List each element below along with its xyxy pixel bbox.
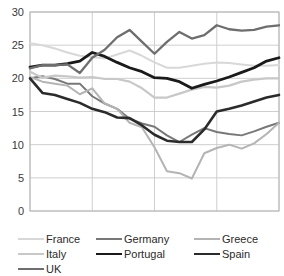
y-axis-tick-label: 5 xyxy=(18,172,24,184)
gridlines xyxy=(30,12,279,211)
legend-swatch-icon xyxy=(18,268,44,270)
line-chart: 051015202530 19992004200920142019 France… xyxy=(0,0,284,276)
legend-swatch-icon xyxy=(194,238,220,240)
y-axis-tick-label: 30 xyxy=(12,6,24,18)
y-axis-tick-label: 15 xyxy=(12,106,24,118)
legend-label: Germany xyxy=(124,233,169,245)
legend-item-france[interactable]: France xyxy=(0,232,92,246)
chart-legend: FranceGermanyGreeceItalyPortugalSpainUK xyxy=(0,232,284,276)
legend-label: Italy xyxy=(46,248,66,260)
legend-item-germany[interactable]: Germany xyxy=(92,232,192,246)
legend-swatch-icon xyxy=(96,238,122,240)
legend-label: UK xyxy=(46,263,61,275)
y-axis-tick-label: 0 xyxy=(18,205,24,215)
legend-label: France xyxy=(46,233,80,245)
chart-svg: 051015202530 19992004200920142019 xyxy=(0,0,284,215)
legend-row: ItalyPortugalSpain xyxy=(0,247,284,261)
legend-item-greece[interactable]: Greece xyxy=(192,232,284,246)
y-axis-tick-label: 10 xyxy=(12,139,24,151)
legend-item-portugal[interactable]: Portugal xyxy=(92,247,192,261)
legend-item-italy[interactable]: Italy xyxy=(0,247,92,261)
plot-area: 051015202530 19992004200920142019 xyxy=(0,0,284,215)
y-axis-tick-label: 25 xyxy=(12,39,24,51)
legend-label: Portugal xyxy=(124,248,165,260)
legend-label: Spain xyxy=(222,248,250,260)
legend-label: Greece xyxy=(222,233,258,245)
legend-item-uk[interactable]: UK xyxy=(0,262,92,276)
legend-swatch-icon xyxy=(96,253,122,256)
legend-item-spain[interactable]: Spain xyxy=(192,247,284,261)
y-axis-tick-labels: 051015202530 xyxy=(12,6,24,215)
legend-swatch-icon xyxy=(18,238,44,240)
legend-swatch-icon xyxy=(194,253,220,256)
legend-row: UK xyxy=(0,262,284,276)
legend-row: FranceGermanyGreece xyxy=(0,232,284,246)
y-axis-tick-label: 20 xyxy=(12,72,24,84)
legend-swatch-icon xyxy=(18,253,44,255)
